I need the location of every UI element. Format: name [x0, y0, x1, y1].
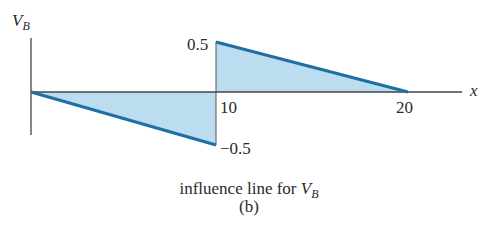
tick-label-positive: 0.5	[187, 36, 208, 53]
y-axis-label-main: V	[12, 11, 22, 30]
x-axis-label: x	[470, 82, 478, 99]
figure-caption: influence line for VB	[0, 180, 498, 198]
y-axis-label-sub: B	[22, 19, 29, 33]
tick-label-10: 10	[220, 99, 237, 116]
tick-label-20: 20	[396, 99, 413, 116]
caption-variable: V	[301, 179, 311, 198]
tick-label-negative: −0.5	[220, 140, 251, 157]
figure-part-label: (b)	[0, 198, 498, 216]
y-axis-label: VB	[12, 12, 30, 29]
caption-text: influence line for	[179, 179, 300, 198]
